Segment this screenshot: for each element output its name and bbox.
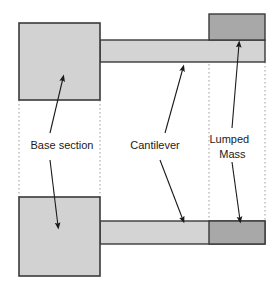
- label-cantilever: Cantilever: [130, 139, 180, 151]
- cantilever-diagram: Base section Cantilever Lumped Mass: [0, 0, 279, 289]
- label-lumped-mass-line2: Mass: [219, 148, 246, 160]
- lumped-mass-bottom: [209, 221, 265, 244]
- label-base-section: Base section: [31, 139, 94, 151]
- label-lumped-mass-line1: Lumped: [209, 133, 249, 145]
- leader-cantilever-down: [160, 160, 183, 220]
- base-section-top: [19, 23, 100, 100]
- leader-lumped-mass-down: [232, 162, 240, 220]
- lumped-mass-top: [209, 14, 265, 40]
- diagram-canvas: Base section Cantilever Lumped Mass: [0, 0, 279, 289]
- leader-cantilever-up: [165, 68, 183, 133]
- cantilever-beam-top: [100, 40, 265, 62]
- base-section-bottom: [19, 197, 100, 276]
- label-lumped-mass: Lumped Mass: [209, 133, 270, 160]
